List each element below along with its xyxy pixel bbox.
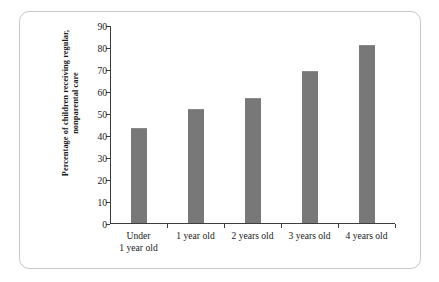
plot-area: 0102030405060708090 — [110, 26, 395, 224]
y-axis-tick-label: 30 — [97, 153, 107, 164]
x-axis-category-label: 1 year old — [167, 230, 224, 242]
x-axis-tick-mark — [281, 224, 282, 228]
x-axis-category-label-line: Under — [110, 230, 167, 242]
y-axis-tick-label: 0 — [102, 219, 107, 230]
y-axis-tick-label: 20 — [97, 175, 107, 186]
y-axis-tick-label: 50 — [97, 109, 107, 120]
y-axis-title-line-1: Percentage of children receiving regular… — [61, 30, 71, 177]
y-axis-tick-label: 40 — [97, 131, 107, 142]
chart-figure-frame: Percentage of children receiving regular… — [19, 11, 421, 269]
x-axis-category-label: 2 years old — [224, 230, 281, 242]
x-axis-category-label-line: 2 years old — [224, 230, 281, 242]
y-axis-line — [110, 26, 111, 224]
y-axis-tick-group: 30 — [110, 158, 111, 159]
x-axis-category-labels: Under1 year old1 year old2 years old3 ye… — [110, 230, 395, 264]
y-axis-tick-group: 40 — [110, 136, 111, 137]
y-axis-tick-label: 60 — [97, 87, 107, 98]
x-axis-tick-mark — [167, 224, 168, 228]
y-axis-tick-group: 80 — [110, 48, 111, 49]
y-axis-title-line-2: nonparental care — [71, 72, 81, 134]
x-axis-category-label-line: 1 year old — [167, 230, 224, 242]
x-axis-category-label-line: 1 year old — [110, 242, 167, 254]
bar — [131, 128, 147, 223]
y-axis-tick-label: 80 — [97, 43, 107, 54]
y-axis-tick-group: 0 — [110, 224, 111, 225]
y-axis-tick-group: 90 — [110, 26, 111, 27]
y-axis-tick-group: 50 — [110, 114, 111, 115]
x-axis-category-label-line: 3 years old — [281, 230, 338, 242]
bar — [359, 45, 375, 223]
y-axis-tick-group: 70 — [110, 70, 111, 71]
y-axis-tick-group: 20 — [110, 180, 111, 181]
y-axis-tick-group: 60 — [110, 92, 111, 93]
x-axis-tick-mark — [224, 224, 225, 228]
x-axis-category-label: 3 years old — [281, 230, 338, 242]
x-axis-line — [110, 223, 395, 224]
bar — [188, 109, 204, 223]
y-axis-tick-label: 90 — [97, 21, 107, 32]
bar — [302, 71, 318, 223]
y-axis-title: Percentage of children receiving regular… — [56, 5, 86, 201]
y-axis-tick-group: 10 — [110, 202, 111, 203]
bar — [245, 98, 261, 223]
x-axis-category-label: 4 years old — [338, 230, 395, 242]
x-axis-category-label-line: 4 years old — [338, 230, 395, 242]
y-axis-tick-label: 70 — [97, 65, 107, 76]
y-axis-tick-label: 10 — [97, 197, 107, 208]
x-axis-tick-mark — [338, 224, 339, 228]
x-axis-category-label: Under1 year old — [110, 230, 167, 254]
x-axis-tick-mark — [395, 224, 396, 228]
